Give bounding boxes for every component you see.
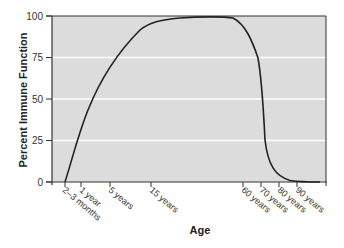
y-tick-label-0: 0 [37,177,43,188]
y-tick-label-50: 50 [32,94,44,105]
x-tick-label-15-years: 15 years [148,185,181,215]
y-tick-label-75: 75 [32,52,44,63]
y-tick-label-100: 100 [26,11,43,22]
immune-function-chart: 100 75 50 25 0 2–3 months 1 year 5 years… [0,0,344,248]
y-axis-title: Percent Immune Function [17,32,29,167]
x-axis-title: Age [190,224,211,236]
y-ticks [46,16,52,182]
x-tick-label-5-years: 5 years [107,185,136,212]
y-tick-label-25: 25 [32,135,44,146]
